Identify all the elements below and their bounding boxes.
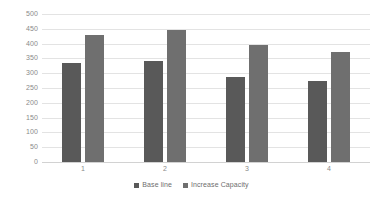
bar bbox=[62, 63, 81, 162]
chart-legend: Base lineIncrease Capacity bbox=[0, 181, 383, 189]
legend-swatch-icon bbox=[134, 183, 139, 188]
y-axis: 500450400350300250200150100500 bbox=[0, 14, 38, 162]
bar bbox=[144, 61, 163, 162]
bars-layer bbox=[42, 14, 370, 162]
y-tick-label: 250 bbox=[0, 84, 38, 92]
x-tick-label: 4 bbox=[288, 164, 370, 174]
legend-entry[interactable]: Increase Capacity bbox=[183, 181, 249, 189]
y-tick-label: 0 bbox=[0, 158, 38, 166]
y-tick-label: 400 bbox=[0, 40, 38, 48]
legend-label: Increase Capacity bbox=[191, 181, 249, 189]
x-axis: 1234 bbox=[42, 164, 370, 178]
y-tick-label: 50 bbox=[0, 143, 38, 151]
y-tick-label: 100 bbox=[0, 128, 38, 136]
legend-entry[interactable]: Base line bbox=[134, 181, 172, 189]
y-tick-label: 450 bbox=[0, 25, 38, 33]
y-tick-label: 200 bbox=[0, 99, 38, 107]
bar-group bbox=[62, 14, 104, 162]
y-tick-label: 150 bbox=[0, 114, 38, 122]
bar bbox=[167, 30, 186, 162]
bar bbox=[331, 52, 350, 162]
bar-group bbox=[308, 14, 350, 162]
x-tick-label: 1 bbox=[42, 164, 124, 174]
y-tick-label: 300 bbox=[0, 69, 38, 77]
gridline bbox=[42, 162, 370, 163]
x-tick-label: 2 bbox=[124, 164, 206, 174]
bar-chart: 500450400350300250200150100500 1234 Base… bbox=[0, 0, 383, 202]
y-tick-label: 500 bbox=[0, 10, 38, 18]
legend-label: Base line bbox=[142, 181, 172, 189]
legend-swatch-icon bbox=[183, 183, 188, 188]
bar bbox=[249, 45, 268, 162]
bar bbox=[85, 35, 104, 162]
bar bbox=[308, 81, 327, 162]
x-tick-label: 3 bbox=[206, 164, 288, 174]
bar-group bbox=[144, 14, 186, 162]
bar-group bbox=[226, 14, 268, 162]
bar bbox=[226, 77, 245, 162]
y-tick-label: 350 bbox=[0, 54, 38, 62]
